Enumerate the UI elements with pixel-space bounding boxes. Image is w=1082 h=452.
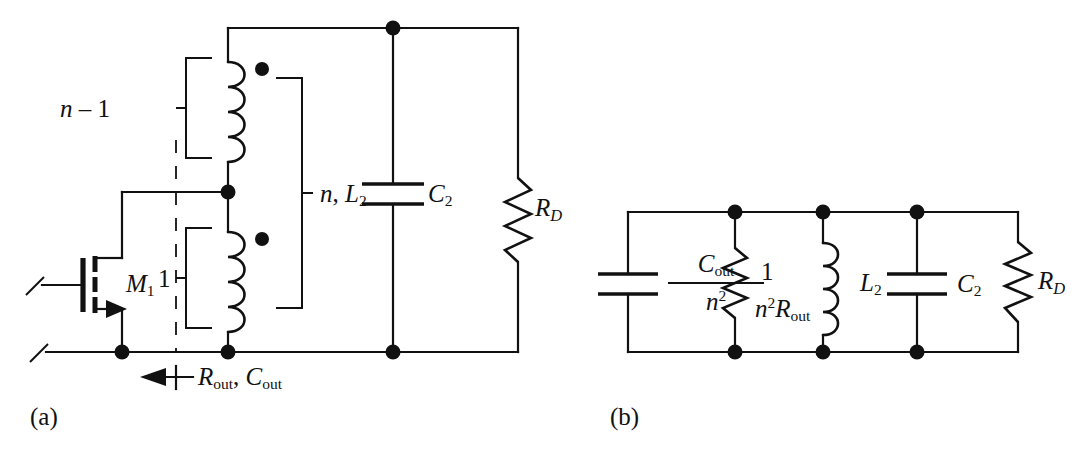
figure-root: n – 1 M1 1 n, L2 C2 RD Rout, Cout (a) Co… <box>0 0 1082 452</box>
source-arrow-icon <box>106 300 127 318</box>
resistor-rd-b <box>1005 242 1031 322</box>
panel-a-group <box>26 21 531 390</box>
circuit-schematic-svg <box>0 0 1082 452</box>
node-source-ground-a <box>115 345 130 360</box>
reflected-resistor-bar <box>755 288 859 291</box>
transformer-total-bracket <box>276 78 313 308</box>
capacitor-c2-b <box>887 274 947 294</box>
capacitor-label-cout-over-n2: Cout n2 <box>668 250 764 316</box>
node-top-c2-b <box>910 205 925 220</box>
capacitor-label-c2-b: C2 <box>957 271 981 299</box>
fraction-bar <box>668 282 764 284</box>
resistor-label-rd-b: RD <box>1038 268 1065 297</box>
capacitor-c2-a <box>362 184 424 204</box>
node-top-rail-c2-a <box>386 21 401 36</box>
caption-b: (b) <box>610 404 639 429</box>
rout-cout-arrow-marker <box>140 366 193 389</box>
polarity-dot-upper-icon <box>255 62 269 76</box>
node-bot-c2-b <box>910 345 925 360</box>
turns-bracket-primary <box>176 228 212 328</box>
transistor-label-m1: M1 <box>126 271 155 299</box>
fraction-denominator: n2 <box>668 286 764 316</box>
resistor-label-rd-a: RD <box>535 195 562 224</box>
node-winding-ground-a <box>221 345 236 360</box>
output-impedance-label: Rout, Cout <box>198 364 282 392</box>
turns-bracket-secondary <box>176 58 212 158</box>
node-top-l2-b <box>816 205 831 220</box>
reflected-resistor-denominator: n2Rout <box>755 293 859 325</box>
caption-a: (a) <box>30 404 58 429</box>
node-top-r-b <box>728 205 743 220</box>
turns-label-secondary: n – 1 <box>60 96 110 121</box>
node-center-tap-a <box>221 185 236 200</box>
inductor-secondary-a <box>228 28 245 192</box>
capacitor-label-c2-a: C2 <box>428 181 452 209</box>
reflected-resistor-numerator: 1 <box>755 258 859 287</box>
capacitor-cout-over-n2-b <box>598 274 658 294</box>
polarity-dot-lower-icon <box>255 232 269 246</box>
node-bottom-rail-c2-a <box>386 345 401 360</box>
mosfet-m1 <box>26 256 127 352</box>
node-bot-r-b <box>728 345 743 360</box>
turns-label-primary: 1 <box>158 266 171 291</box>
inductor-label-l2-b: L2 <box>860 270 882 298</box>
node-bot-l2-b <box>816 345 831 360</box>
inductor-primary-a <box>228 192 245 352</box>
fraction-numerator: Cout <box>668 250 764 281</box>
resistor-label-one-over-n2rout: 1 n2Rout <box>755 258 859 325</box>
transformer-label-n-l2: n, L2 <box>320 181 367 209</box>
resistor-rd-a <box>505 178 531 262</box>
